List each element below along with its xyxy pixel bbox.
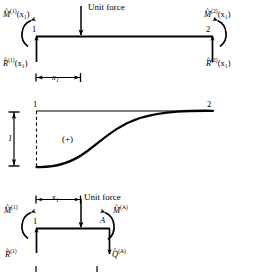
node-label-2-influence: 2 [207, 99, 211, 109]
shear-label-cut: ^Q(A) [112, 249, 126, 258]
moment-superscript: (1) [11, 204, 18, 210]
moment-argument: (x₁) [218, 9, 231, 19]
hat-accent-icon: ^ [5, 203, 9, 212]
reaction-label-left-top: ^R(1)(x₁) [3, 58, 28, 67]
moment-argument: (x₁) [17, 9, 30, 19]
dimension-label-x1-top: x₁ [52, 73, 59, 82]
moment-arc-right [218, 21, 227, 47]
hat-accent-icon: ^ [114, 203, 118, 212]
moment-arc-left [22, 21, 31, 47]
reaction-superscript: (1) [10, 248, 17, 254]
node-label-1-bottom: 1 [33, 216, 37, 226]
reaction-label-right-top: ^R(2)(x₁) [206, 58, 231, 67]
hat-accent-icon: ^ [113, 247, 117, 256]
moment-label-left-bottom: ^M(1) [4, 205, 18, 214]
moment-superscript: (A) [120, 204, 128, 210]
shear-superscript: (A) [118, 248, 126, 254]
reaction-argument: (x₁) [15, 58, 28, 68]
moment-label-right-top: ^M(2)(x₁) [204, 9, 231, 18]
hat-accent-icon: ^ [4, 7, 8, 16]
hat-accent-icon: ^ [207, 56, 211, 65]
panel-beam-reactions [0, 0, 257, 272]
node-label-2-top: 2 [206, 24, 210, 34]
sign-label-positive: (+) [62, 135, 73, 144]
moment-label-left-top: ^M(1)(x₁) [3, 9, 30, 18]
unit-force-label-top: Unit force [88, 2, 125, 12]
ordinate-label-1: 1 [8, 134, 12, 143]
node-label-1-top: 1 [32, 24, 36, 34]
moment-arc-left-fb [22, 213, 31, 239]
dimension-label-x1-bottom: x₁ [52, 193, 59, 202]
node-label-1-influence: 1 [33, 99, 37, 109]
unit-force-label-bottom: Unit force [84, 192, 121, 202]
hat-accent-icon: ^ [205, 7, 209, 16]
cut-point-label-a: A [100, 216, 105, 225]
reaction-argument: (x₁) [218, 58, 231, 68]
hat-accent-icon: ^ [6, 247, 10, 256]
moment-label-cut: ^M(A) [113, 205, 128, 214]
reaction-label-left-bottom: ^R(1) [5, 249, 17, 258]
hat-accent-icon: ^ [4, 56, 8, 65]
